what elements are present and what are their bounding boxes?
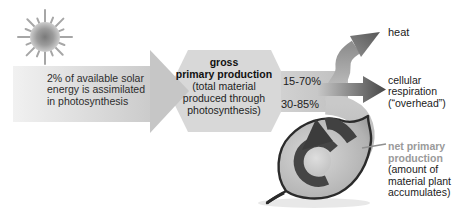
- gpp-label: gross primary production (total material…: [157, 56, 291, 116]
- respiration-text-line: (“overhead”): [388, 98, 446, 109]
- solar-text-line: in photosynthesis: [47, 96, 145, 107]
- solar-input-label: 2% of available solar energy is assimila…: [47, 73, 145, 107]
- gpp-subtitle-line: photosynthesis): [157, 104, 291, 116]
- cellular-respiration-label: cellular respiration (“overhead”): [388, 75, 446, 109]
- heat-respiration-percentage: 15-70%: [283, 75, 321, 87]
- leaf-icon: [258, 116, 371, 208]
- energy-flow-diagram: 2% of available solar energy is assimila…: [0, 0, 452, 218]
- npp-title-line: net primary: [388, 141, 451, 153]
- net-production-percentage: 30-85%: [281, 98, 319, 110]
- npp-subtitle-line: (amount of: [388, 164, 451, 176]
- heat-label: heat: [388, 26, 409, 38]
- gpp-subtitle-line: produced through: [157, 92, 291, 104]
- sun-icon: [18, 10, 72, 64]
- gpp-title-line: primary production: [157, 68, 291, 80]
- gpp-subtitle-line: (total material: [157, 80, 291, 92]
- net-primary-production-label: net primary production (amount of materi…: [388, 141, 451, 199]
- sun-core: [30, 22, 60, 52]
- gpp-title-line: gross: [157, 56, 291, 68]
- npp-subtitle-line: accumulates): [388, 187, 451, 199]
